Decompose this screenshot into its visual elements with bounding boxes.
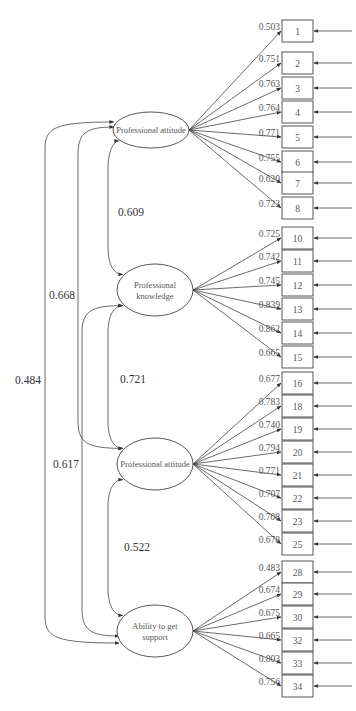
- diagram-canvas: 0.6090.7210.5220.6680.6170.484 0.5030.75…: [0, 0, 356, 711]
- loading-arrow: [189, 63, 281, 130]
- loading-value: 0.665: [259, 348, 281, 358]
- indicator-label: 28: [293, 568, 303, 578]
- sem-path-diagram: 0.6090.7210.5220.6680.6170.484 0.5030.75…: [0, 0, 356, 711]
- loading-arrow: [193, 406, 281, 464]
- indicator-label: 21: [293, 471, 303, 481]
- loading-value: 0.678: [259, 535, 281, 545]
- correlation-value: 0.484: [15, 374, 41, 386]
- indicator-label: 22: [293, 494, 303, 504]
- indicator-label: 23: [293, 517, 303, 527]
- loading-arrow: [193, 572, 281, 631]
- loading-value: 0.483: [259, 563, 281, 573]
- loading-value: 0.763: [259, 79, 281, 89]
- correlation-path-f1-f3: [78, 127, 123, 448]
- indicator-boxes: 1234567810111213141516181920212223252829…: [282, 20, 352, 697]
- indicator-label: 4: [295, 108, 300, 118]
- latent-label: Professional attitude: [120, 459, 190, 469]
- latent-label: Professional: [134, 280, 177, 290]
- indicator-label: 19: [293, 425, 303, 435]
- indicator-label: 34: [293, 682, 303, 692]
- latent-label: knowledge: [136, 291, 174, 301]
- loading-value: 0.755: [259, 153, 281, 163]
- indicator-label: 32: [293, 636, 303, 646]
- loading-value: 0.677: [259, 374, 281, 384]
- loading-value: 0.503: [259, 22, 281, 32]
- correlation-path-f3-f4: [108, 480, 123, 616]
- loading-value: 0.707: [259, 489, 281, 499]
- correlation-value: 0.522: [124, 541, 150, 553]
- loading-value: 0.783: [259, 397, 281, 407]
- indicator-label: 15: [293, 353, 303, 363]
- loading-value: 0.742: [259, 252, 281, 262]
- loading-value: 0.771: [259, 466, 281, 476]
- indicator-label: 13: [293, 305, 303, 315]
- loading-value: 0.740: [259, 420, 281, 430]
- correlation-value: 0.609: [118, 206, 144, 218]
- loading-value: 0.620: [259, 174, 281, 184]
- correlation-value: 0.617: [53, 458, 79, 470]
- indicator-label: 3: [295, 84, 300, 94]
- indicator-label: 33: [293, 659, 303, 669]
- loading-value: 0.862: [259, 324, 281, 334]
- correlation-value: 0.721: [120, 373, 146, 385]
- correlation-value: 0.668: [49, 289, 75, 301]
- indicator-label: 20: [293, 448, 303, 458]
- loading-arrow: [193, 452, 281, 464]
- indicator-label: 12: [293, 281, 303, 291]
- loading-value: 0.665: [259, 631, 281, 641]
- loading-value: 0.751: [259, 54, 281, 64]
- latent-label: Ability to get: [132, 621, 178, 631]
- loading-arrow: [189, 130, 281, 208]
- loading-value: 0.764: [259, 103, 281, 113]
- correlation-path-f2-f4: [82, 306, 123, 636]
- indicator-label: 1: [295, 27, 300, 37]
- loading-value: 0.723: [259, 199, 281, 209]
- loading-value: 0.794: [259, 443, 281, 453]
- indicator-label: 11: [293, 257, 302, 267]
- indicator-label: 30: [293, 613, 303, 623]
- indicator-label: 7: [295, 179, 300, 189]
- loading-value: 0.708: [259, 512, 281, 522]
- latent-label: support: [142, 632, 168, 642]
- indicator-label: 18: [293, 402, 303, 412]
- indicator-label: 8: [295, 204, 300, 214]
- loading-value: 0.803: [259, 654, 281, 664]
- latent-label: Professional attitude: [116, 125, 186, 135]
- loading-paths: 0.5030.7510.7630.7640.7710.7550.6200.723…: [189, 22, 281, 687]
- indicator-label: 6: [295, 158, 300, 168]
- indicator-label: 10: [293, 234, 303, 244]
- loading-value: 0.725: [259, 229, 281, 239]
- indicator-label: 14: [293, 329, 303, 339]
- indicator-label: 25: [293, 540, 303, 550]
- indicator-label: 5: [295, 133, 300, 143]
- loading-value: 0.771: [259, 128, 281, 138]
- loading-arrow: [193, 464, 281, 544]
- loading-value: 0.756: [259, 677, 281, 687]
- loading-value: 0.839: [259, 300, 281, 310]
- loading-value: 0.675: [259, 608, 281, 618]
- correlation-paths: 0.6090.7210.5220.6680.6170.484: [15, 122, 150, 643]
- indicator-label: 16: [293, 379, 303, 389]
- loading-value: 0.745: [259, 276, 281, 286]
- indicator-label: 29: [293, 590, 303, 600]
- indicator-label: 2: [295, 59, 300, 69]
- loading-arrow: [193, 617, 281, 631]
- loading-value: 0.674: [259, 585, 281, 595]
